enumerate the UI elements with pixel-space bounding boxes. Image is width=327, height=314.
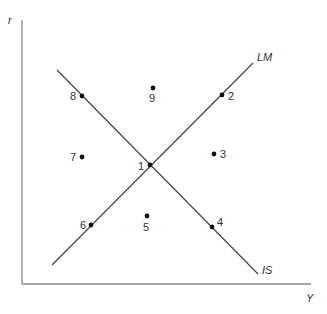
point-8-label: 8	[70, 90, 76, 102]
x-axis-label: Y	[306, 292, 314, 304]
point-1-label: 1	[138, 160, 144, 172]
lm-curve-label: LM	[257, 51, 273, 63]
y-axis-label: r	[8, 14, 13, 26]
point-2-label: 2	[228, 90, 234, 102]
point-5-label: 5	[143, 221, 149, 233]
point-7-marker	[80, 155, 85, 160]
is-curve-label: IS	[262, 264, 273, 276]
point-8-marker	[80, 94, 85, 99]
point-6-marker	[89, 223, 94, 228]
point-1-marker	[148, 163, 153, 168]
curves: ISLM	[52, 51, 273, 276]
point-7-label: 7	[70, 151, 76, 163]
point-9-label: 9	[149, 92, 155, 104]
point-3-marker	[212, 152, 217, 157]
point-2-marker	[220, 93, 225, 98]
point-4-label: 4	[217, 216, 223, 228]
point-5-marker	[145, 214, 150, 219]
plot-area: r Y ISLM 123456789	[0, 0, 327, 314]
point-4-marker	[210, 225, 215, 230]
point-9-marker	[151, 86, 156, 91]
point-3-label: 3	[220, 148, 226, 160]
point-6-label: 6	[80, 219, 86, 231]
islm-diagram: r Y ISLM 123456789	[0, 0, 327, 314]
